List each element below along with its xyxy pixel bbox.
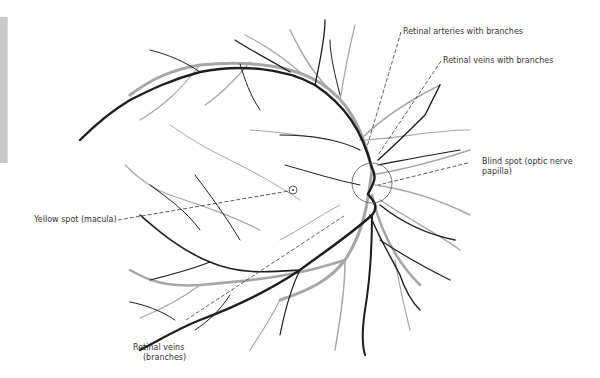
retinal-veins xyxy=(80,20,460,355)
label-retinal-arteries: Retinal arteries with branches xyxy=(403,27,523,37)
label-blind-spot-line2: papilla) xyxy=(482,167,512,177)
label-retinal-veins: Retinal veins with branches xyxy=(443,56,553,66)
label-blind-spot-line1: Blind spot (optic nerve xyxy=(482,157,573,167)
label-vein-branches-line1: Retinal veins xyxy=(133,343,183,353)
retinal-arteries xyxy=(125,25,470,350)
label-vein-branches-line2: (branches) xyxy=(143,353,186,363)
label-macula: Yellow spot (macula) xyxy=(34,215,117,225)
